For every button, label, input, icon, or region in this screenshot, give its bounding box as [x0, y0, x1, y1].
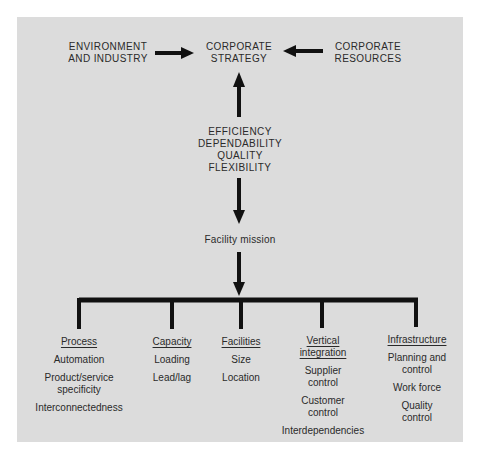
branch-heading: Capacity	[137, 336, 207, 348]
corporate-resources-node: CORPORATE RESOURCES	[323, 41, 413, 65]
branch-vertical-integration: Vertical integration Supplier control Cu…	[277, 335, 369, 443]
branch-item: Quality control	[392, 400, 442, 424]
branch-item: Product/service specificity	[44, 372, 114, 396]
criterion-flexibility: FLEXIBILITY	[180, 162, 300, 174]
branch-item: Interdependencies	[277, 425, 369, 437]
branch-item: Automation	[29, 354, 129, 366]
branch-item: Supplier control	[293, 365, 353, 389]
branch-heading: Facilities	[206, 336, 276, 348]
facility-mission-node: Facility mission	[180, 234, 300, 246]
environment-line2: AND INDUSTRY	[58, 53, 158, 65]
branch-item: Location	[206, 372, 276, 384]
strategy-line1: CORPORATE	[194, 41, 284, 53]
branch-facilities: Facilities Size Location	[206, 336, 276, 390]
branch-item: Interconnectedness	[29, 402, 129, 414]
branch-heading: Process	[29, 336, 129, 348]
branch-item: Size	[206, 354, 276, 366]
branch-item: Customer control	[293, 395, 353, 419]
criterion-efficiency: EFFICIENCY	[180, 126, 300, 138]
branch-item: Lead/lag	[137, 372, 207, 384]
branch-capacity: Capacity Loading Lead/lag	[137, 336, 207, 390]
environment-line1: ENVIRONMENT	[58, 41, 158, 53]
resources-line2: RESOURCES	[323, 53, 413, 65]
branch-item: Planning and control	[382, 352, 452, 376]
corporate-strategy-node: CORPORATE STRATEGY	[194, 41, 284, 65]
criterion-quality: QUALITY	[180, 150, 300, 162]
resources-line1: CORPORATE	[323, 41, 413, 53]
branch-process: Process Automation Product/service speci…	[29, 336, 129, 420]
strategy-line2: STRATEGY	[194, 53, 284, 65]
branch-item: Loading	[137, 354, 207, 366]
branch-item: Work force	[371, 382, 463, 394]
branch-heading: Infrastructure	[371, 334, 463, 346]
criterion-dependability: DEPENDABILITY	[180, 138, 300, 150]
branch-heading: Vertical integration	[293, 335, 353, 359]
criteria-node: EFFICIENCY DEPENDABILITY QUALITY FLEXIBI…	[180, 126, 300, 174]
environment-node: ENVIRONMENT AND INDUSTRY	[58, 41, 158, 65]
branch-infrastructure: Infrastructure Planning and control Work…	[371, 334, 463, 430]
